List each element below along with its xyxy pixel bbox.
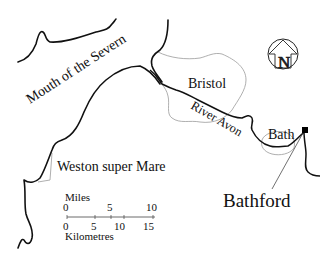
label-mouth-of-severn: Mouth of the Severn <box>23 31 128 106</box>
scale-km-label: Kilometres <box>65 230 114 242</box>
north-arrow-letter: N <box>278 53 290 72</box>
scale-miles-tick-0: 0 <box>63 201 69 213</box>
north-arrow: N <box>268 39 298 72</box>
bathford-marker <box>302 127 308 133</box>
river-east <box>304 132 320 176</box>
scale-km-tick-15: 15 <box>143 220 155 232</box>
scale-miles-tick-5: 5 <box>107 201 113 213</box>
label-bathford: Bathford <box>223 190 291 211</box>
label-river-avon: River Avon <box>189 98 246 139</box>
label-bath: Bath <box>268 127 294 142</box>
scale-bar: Miles 0 5 10 0 5 10 15 Kilometres <box>63 191 158 242</box>
scale-miles-label: Miles <box>65 191 90 203</box>
map: N Mouth of the Severn Bristol River Avon… <box>0 0 327 269</box>
scale-miles-tick-10: 10 <box>146 201 158 213</box>
label-weston-super-mare: Weston super Mare <box>57 159 166 174</box>
scale-km-tick-10: 10 <box>114 220 126 232</box>
label-bristol: Bristol <box>188 76 226 91</box>
